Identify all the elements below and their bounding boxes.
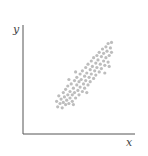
data-point [81, 90, 84, 93]
data-point [82, 82, 85, 85]
data-point [79, 72, 82, 75]
data-point [61, 106, 64, 109]
data-point [98, 70, 101, 73]
data-point [102, 52, 105, 55]
data-point [88, 76, 91, 79]
data-point [89, 80, 92, 83]
data-point [110, 51, 113, 54]
plot-area [0, 0, 148, 156]
data-point [109, 46, 112, 49]
data-point [74, 96, 77, 99]
data-point [65, 99, 68, 102]
data-point [108, 65, 111, 68]
data-point [68, 90, 71, 93]
data-point [67, 102, 70, 105]
data-point [75, 83, 78, 86]
data-point [90, 72, 93, 75]
data-point [90, 59, 93, 62]
data-point [75, 76, 78, 79]
data-point [95, 66, 98, 69]
data-point [107, 42, 110, 45]
data-point [94, 74, 97, 77]
data-point [102, 59, 105, 62]
data-point [60, 98, 63, 101]
data-point [84, 66, 87, 69]
data-point [94, 62, 97, 65]
data-point [73, 91, 76, 94]
data-point [93, 69, 96, 72]
data-point [95, 54, 98, 57]
data-point [62, 91, 65, 94]
data-point [56, 105, 59, 108]
data-point [100, 55, 103, 58]
data-point [104, 45, 107, 48]
data-point [80, 78, 83, 81]
data-point [66, 84, 69, 87]
data-point [79, 86, 82, 89]
data-point [85, 71, 88, 74]
data-point [55, 100, 58, 103]
data-point [103, 64, 106, 67]
data-point [92, 77, 95, 80]
data-point [85, 91, 88, 94]
y-axis-label: y [13, 24, 19, 35]
data-point [57, 94, 60, 97]
data-point [74, 70, 77, 73]
data-point [81, 69, 84, 72]
data-point [103, 71, 106, 74]
data-point [110, 41, 113, 44]
data-point [86, 63, 89, 66]
data-point [96, 58, 99, 61]
data-point [101, 47, 104, 50]
data-point [98, 51, 101, 54]
data-point [99, 63, 102, 66]
scatter-chart: y x [0, 0, 148, 156]
data-point [105, 50, 108, 53]
data-point [77, 93, 80, 96]
data-point [70, 82, 73, 85]
data-point [71, 100, 74, 103]
data-point [107, 61, 110, 64]
x-axis-label: x [126, 137, 132, 148]
data-point [64, 88, 67, 91]
data-point [58, 102, 61, 105]
data-point [72, 87, 75, 90]
data-point [73, 79, 76, 82]
data-point [84, 79, 87, 82]
data-point [108, 54, 111, 57]
data-point [64, 103, 67, 106]
data-point [63, 95, 66, 98]
data-point [104, 56, 107, 59]
data-point [66, 93, 69, 96]
data-points [55, 41, 113, 110]
data-point [67, 78, 70, 81]
data-point [72, 103, 75, 106]
data-point [76, 89, 79, 92]
data-point [83, 75, 86, 78]
data-point [86, 83, 89, 86]
data-point [92, 56, 95, 59]
data-point [89, 68, 92, 71]
data-point [83, 87, 86, 90]
data-point [100, 67, 103, 70]
data-point [68, 96, 71, 99]
data-point [91, 65, 94, 68]
